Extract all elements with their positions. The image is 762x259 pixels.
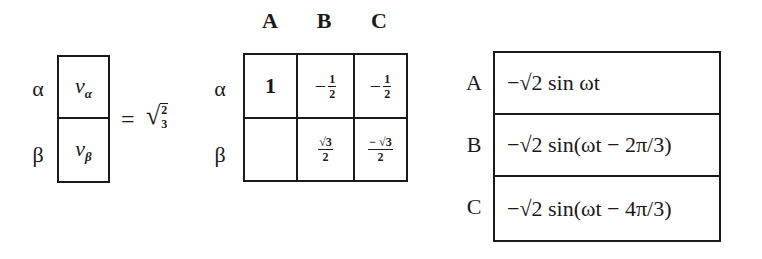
matrix-cell-beta-c: − √32	[355, 119, 406, 180]
phase-label-b: B	[460, 132, 488, 158]
vector-entry-alpha: vα	[59, 57, 108, 119]
matrix-cell-alpha-a: 1	[245, 55, 296, 117]
matrix-cell-alpha-c: − 12	[355, 55, 406, 117]
phase-label-a: A	[460, 70, 488, 96]
clarke-transform-matrix: 1 − 12 − 12 √32 − √32	[243, 53, 408, 182]
coefficient: √ 2 3	[146, 101, 168, 131]
matrix-cell-beta-a	[245, 119, 296, 180]
phase-expression-a: −√2 sin ωt	[495, 53, 719, 115]
matrix-col-label-c: C	[364, 8, 394, 34]
vector-row-label-beta: β	[26, 142, 50, 168]
matrix-cell-beta-b: √32	[298, 119, 353, 180]
matrix-row-label-beta: β	[208, 142, 232, 168]
phase-voltage-table: −√2 sin ωt −√2 sin(ωt − 2π/3) −√2 sin(ωt…	[493, 51, 721, 242]
vector-row-label-alpha: α	[26, 76, 50, 102]
matrix-col-label-a: A	[255, 8, 285, 34]
matrix-col-label-b: B	[309, 8, 339, 34]
matrix-cell-alpha-b: − 12	[298, 55, 353, 117]
vector-entry-beta: vβ	[59, 119, 108, 181]
matrix-row-label-alpha: α	[208, 76, 232, 102]
equals-sign: =	[121, 106, 135, 133]
alpha-beta-vector: vα vβ	[57, 55, 110, 183]
phase-label-c: C	[460, 194, 488, 220]
phase-expression-b: −√2 sin(ωt − 2π/3)	[495, 115, 719, 177]
phase-expression-c: −√2 sin(ωt − 4π/3)	[495, 177, 719, 240]
